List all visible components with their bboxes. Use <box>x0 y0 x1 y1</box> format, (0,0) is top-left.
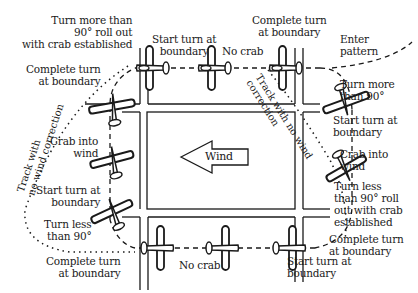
label-left-start-turn: Start turn at boundary <box>36 184 100 208</box>
label-top-complete-turn: Complete turn at boundary <box>252 14 327 38</box>
label-right-turn-less: Turn less than 90° roll out with crab es… <box>334 180 403 228</box>
label-enter-pattern: Enter pattern <box>340 33 378 57</box>
airplane-bottom-complete-turn <box>141 226 174 270</box>
label-top-no-crab: No crab <box>222 45 263 57</box>
label-bottom-no-crab: No crab <box>179 259 220 271</box>
label-top-left-turn: Turn more than 90° roll out with crab es… <box>22 14 132 50</box>
traffic-pattern-diagram: Turn more than 90° roll out with crab es… <box>0 0 418 293</box>
airplane-left-complete-turn <box>87 90 138 130</box>
airplane-top-complete-turn <box>270 46 303 90</box>
wind-label: Wind <box>205 151 233 163</box>
label-bottom-start-turn: Start turn at boundary <box>287 255 351 279</box>
label-right-turn-more: Turn more than 90° <box>340 78 395 102</box>
label-bottom-complete-turn: Complete turn at boundary <box>46 255 121 279</box>
label-left-crab: Crab into wind <box>50 135 98 159</box>
label-right-start-turn: Start turn at boundary <box>333 114 397 138</box>
label-left-turn-less: Turn less than 90° <box>44 218 91 242</box>
label-right-crab: Crab into wind <box>340 148 388 172</box>
label-right-complete-turn: Complete turn at boundary <box>329 233 404 257</box>
label-top-start-turn: Start turn at boundary <box>152 33 216 57</box>
label-left-complete-turn: Complete turn at boundary <box>26 63 101 87</box>
